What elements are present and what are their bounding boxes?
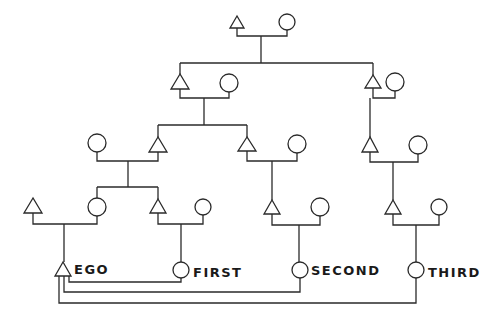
first-label: FIRST	[193, 265, 242, 280]
male-triangle-icon	[385, 200, 401, 214]
first-cousin-circle-icon	[173, 262, 189, 278]
female-circle-icon	[88, 198, 106, 216]
male-triangle-icon	[362, 137, 378, 152]
third-cousin-link	[59, 276, 416, 303]
third-label: THIRD	[428, 265, 481, 280]
female-circle-icon	[195, 199, 211, 215]
male-triangle-icon	[264, 200, 280, 214]
gen4-second-parents	[264, 198, 329, 262]
second-cousin-node: SECOND	[292, 262, 381, 278]
gen3-right-couple	[362, 136, 427, 200]
first-cousin-node: FIRST	[173, 262, 242, 280]
gen3-middle-couple	[238, 125, 306, 200]
female-circle-icon	[386, 73, 404, 91]
male-triangle-icon	[238, 137, 256, 151]
second-label: SECOND	[311, 263, 381, 278]
male-triangle-icon	[365, 75, 381, 88]
male-triangle-icon	[171, 74, 189, 89]
female-circle-icon	[88, 134, 106, 152]
female-circle-icon	[220, 74, 238, 92]
gen1-couple	[180, 14, 373, 63]
ego-triangle-icon	[55, 262, 71, 276]
gen4-ego-parents	[24, 187, 106, 262]
male-triangle-icon	[149, 137, 167, 152]
kinship-diagram: EGO FIRST SECOND THIRD	[0, 0, 494, 323]
female-circle-icon	[431, 199, 447, 215]
male-triangle-icon	[150, 199, 166, 213]
female-circle-icon	[279, 14, 295, 30]
female-circle-icon	[409, 136, 427, 154]
gen3-left-couple	[88, 125, 167, 187]
gen4-third-parents	[385, 199, 447, 262]
ego-node: EGO	[55, 262, 109, 277]
gen2-left-couple	[158, 63, 247, 125]
second-cousin-circle-icon	[292, 262, 308, 278]
male-triangle-icon	[24, 198, 42, 213]
gen2-right-couple	[365, 63, 404, 137]
female-circle-icon	[288, 135, 306, 153]
third-cousin-circle-icon	[408, 262, 424, 278]
ego-label: EGO	[74, 262, 109, 277]
male-triangle-icon	[230, 16, 244, 28]
female-circle-icon	[311, 198, 329, 216]
gen4-first-parents	[150, 187, 211, 262]
third-cousin-node: THIRD	[408, 262, 481, 280]
